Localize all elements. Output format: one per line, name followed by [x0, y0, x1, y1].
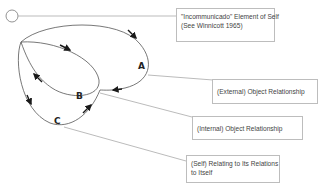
- callout-internal: (Internal) Object Relationship: [192, 116, 303, 140]
- callout-self-line1: (Self) Relating to Its Relations: [191, 159, 275, 168]
- callout-incommunicado-line1: "Incommunicado" Element of Self: [181, 12, 270, 21]
- callout-incommunicado: "Incommunicado" Element of Self (See Win…: [176, 8, 275, 42]
- lower-loop-path: [18, 42, 100, 125]
- leader-internal: [100, 93, 192, 117]
- node-label-b: B: [76, 91, 83, 101]
- callout-external-line1: (External) Object Relationship: [217, 87, 313, 96]
- node-label-a: A: [138, 61, 145, 71]
- leader-self: [64, 127, 186, 161]
- callout-self-line2: to Itself: [191, 168, 275, 177]
- callout-external: (External) Object Relationship: [212, 79, 318, 104]
- node-label-c: C: [54, 116, 61, 126]
- leader-external: [148, 75, 213, 80]
- callout-self: (Self) Relating to Its Relations to Itse…: [186, 155, 280, 183]
- callout-internal-line1: (Internal) Object Relationship: [197, 124, 298, 133]
- self-circle-icon: [6, 10, 18, 22]
- arrow-bottom-A-icon: [113, 89, 122, 90]
- inner-loop-path: [21, 42, 99, 96]
- callout-incommunicado-line2: (See Winnicott 1965): [181, 21, 270, 30]
